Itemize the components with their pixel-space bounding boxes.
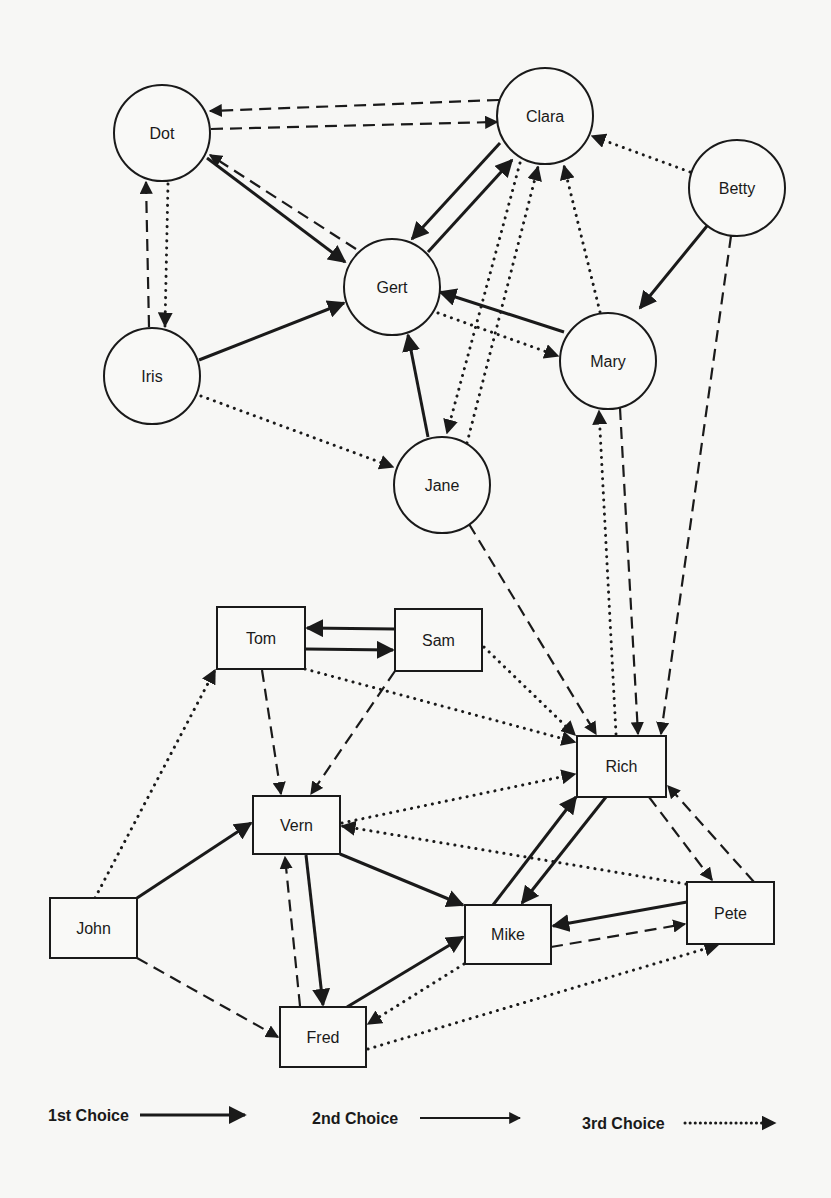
node-label: John (76, 920, 111, 937)
legend-label: 2nd Choice (312, 1110, 398, 1127)
node-dot: Dot (114, 85, 210, 181)
edge-jane-to-rich (469, 524, 596, 734)
legend-item-1: 1st Choice (48, 1107, 245, 1124)
edge-clara-to-dot (210, 100, 499, 111)
node-label: Clara (526, 108, 564, 125)
edge-vern-to-rich (342, 774, 575, 823)
node-fred: Fred (280, 1007, 366, 1067)
node-rich: Rich (577, 736, 666, 797)
edge-fred-to-mike (347, 937, 463, 1007)
edge-john-to-vern (137, 823, 251, 898)
node-label: Jane (425, 477, 460, 494)
node-mike: Mike (465, 905, 551, 964)
edge-john-to-fred (137, 958, 278, 1037)
edge-iris-to-dot (146, 182, 149, 327)
legend-item-3: 3rd Choice (582, 1115, 775, 1132)
edge-iris-to-gert (199, 303, 344, 360)
edge-iris-to-jane (201, 396, 393, 467)
node-mary: Mary (560, 313, 656, 409)
edge-mike-to-pete (551, 924, 685, 947)
edge-betty-to-rich (661, 236, 731, 734)
legend-label: 1st Choice (48, 1107, 129, 1124)
edge-john-to-tom (95, 670, 215, 898)
node-betty: Betty (689, 140, 785, 236)
edge-pete-to-rich (668, 786, 754, 882)
node-label: Iris (141, 368, 162, 385)
edge-sam-to-vern (311, 671, 395, 794)
node-gert: Gert (344, 239, 440, 335)
edge-mary-to-rich (620, 408, 638, 734)
node-label: Vern (280, 817, 313, 834)
nodes-layer: DotClaraBettyGertIrisMaryJaneTomSamRichV… (50, 68, 785, 1067)
edge-rich-to-mary (599, 411, 616, 734)
edge-vern-to-fred (306, 855, 323, 1005)
edge-dot-to-iris (165, 184, 168, 326)
edge-dot-to-clara (211, 122, 497, 129)
sociogram-diagram: DotClaraBettyGertIrisMaryJaneTomSamRichV… (0, 0, 831, 1198)
node-clara: Clara (497, 68, 593, 164)
edge-fred-to-vern (285, 857, 300, 1006)
edge-vern-to-mike (340, 854, 463, 905)
node-label: Rich (605, 758, 637, 775)
legend-item-2: 2nd Choice (312, 1110, 520, 1127)
edge-dot-to-gert (207, 158, 345, 262)
node-label: Fred (307, 1029, 340, 1046)
edge-gert-to-dot (210, 155, 356, 249)
node-vern: Vern (253, 796, 340, 854)
edge-tom-to-rich (305, 669, 575, 742)
edges-layer (95, 100, 754, 1049)
node-iris: Iris (104, 328, 200, 424)
node-label: Dot (150, 125, 175, 142)
edge-tom-to-vern (262, 670, 281, 794)
node-sam: Sam (395, 609, 482, 671)
edge-clara-to-gert (412, 143, 500, 239)
node-label: Pete (714, 905, 747, 922)
node-label: Mary (590, 353, 626, 370)
node-label: Tom (246, 630, 276, 647)
node-label: Sam (422, 632, 455, 649)
node-pete: Pete (687, 882, 774, 944)
edge-betty-to-clara (592, 136, 690, 172)
edge-rich-to-pete (649, 797, 712, 880)
legend: 1st Choice2nd Choice3rd Choice (48, 1107, 775, 1132)
node-jane: Jane (394, 437, 490, 533)
edge-betty-to-mary (640, 226, 707, 308)
edge-tom-to-sam (305, 649, 393, 650)
edge-mike-to-fred (368, 964, 464, 1024)
edge-mary-to-clara (564, 166, 600, 312)
node-john: John (50, 898, 137, 958)
node-label: Mike (491, 926, 525, 943)
edge-sam-to-tom (307, 628, 395, 629)
edge-pete-to-mike (553, 902, 687, 926)
legend-label: 3rd Choice (582, 1115, 665, 1132)
edge-jane-to-gert (408, 335, 428, 437)
node-label: Gert (376, 279, 408, 296)
node-label: Betty (719, 180, 755, 197)
node-tom: Tom (217, 607, 305, 669)
